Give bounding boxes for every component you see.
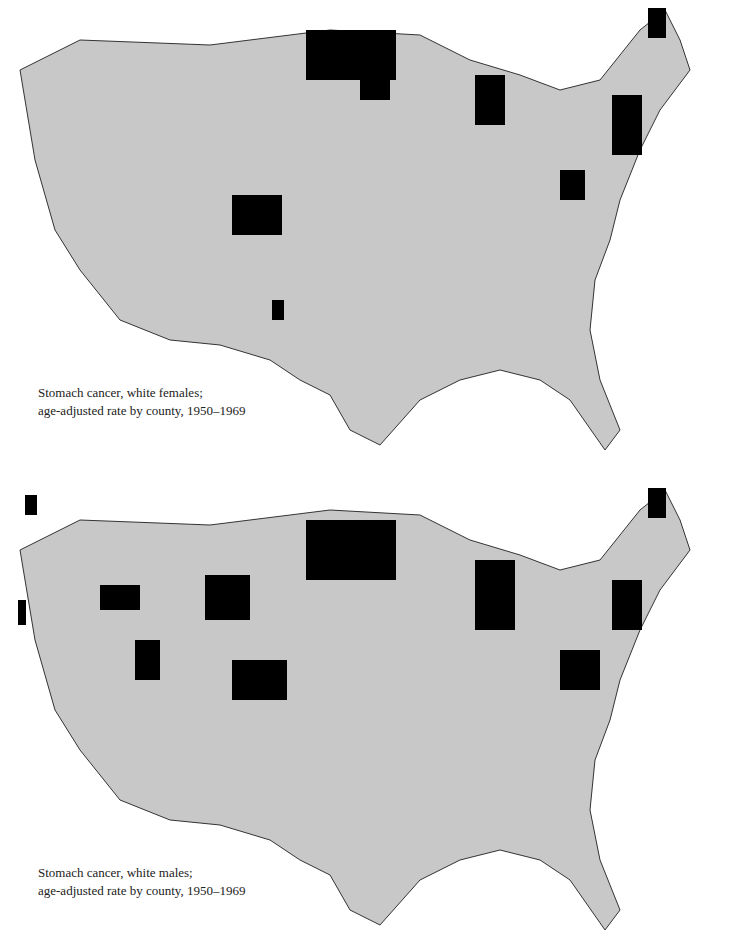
high-rate-cluster bbox=[648, 488, 666, 518]
high-rate-cluster bbox=[232, 660, 287, 700]
high-rate-cluster bbox=[18, 600, 26, 625]
high-rate-cluster bbox=[475, 560, 515, 630]
high-rate-cluster bbox=[135, 640, 160, 680]
high-rate-cluster bbox=[612, 580, 642, 630]
us-county-map-male bbox=[0, 0, 755, 939]
high-rate-cluster bbox=[560, 650, 600, 690]
high-rate-cluster bbox=[25, 495, 37, 515]
map-male: Stomach cancer, white males; age-adjuste… bbox=[0, 0, 755, 939]
high-rate-cluster bbox=[306, 520, 396, 580]
caption-male: Stomach cancer, white males; age-adjuste… bbox=[38, 864, 245, 900]
high-rate-cluster bbox=[100, 585, 140, 610]
high-rate-cluster bbox=[205, 575, 250, 620]
